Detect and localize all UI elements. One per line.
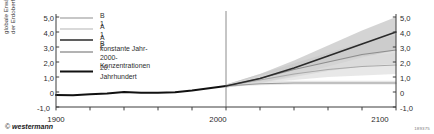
publisher-name: westermann xyxy=(10,123,53,130)
copyright-notice: © westermann xyxy=(5,123,53,130)
legend-swatch-constant xyxy=(60,50,93,54)
legend-label: 20. Jahrhundert xyxy=(100,64,137,81)
climate-projection-chart: globale Erwärmung an der Erdoberfläche (… xyxy=(0,0,434,134)
legend-swatch-b1 xyxy=(60,16,93,20)
legend-swatch-a1b xyxy=(60,27,93,31)
image-code: 189375 xyxy=(414,126,430,131)
legend-swatch-a2 xyxy=(60,38,93,42)
plot-area xyxy=(0,0,434,134)
legend-swatch-20th-century xyxy=(60,69,93,74)
